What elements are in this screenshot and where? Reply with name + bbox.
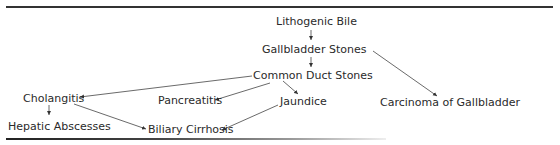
edge-cd-to-jaundice bbox=[283, 81, 298, 94]
node-gallbladder-stones: Gallbladder Stones bbox=[262, 43, 366, 56]
node-cholangitis: Cholangitis bbox=[23, 92, 84, 105]
node-common-duct-stones: Common Duct Stones bbox=[253, 69, 373, 82]
node-lithogenic-bile: Lithogenic Bile bbox=[276, 15, 357, 28]
node-biliary-cirrhosis: Biliary Cirrhosis bbox=[148, 123, 234, 136]
edge-gb-to-carcinoma bbox=[373, 51, 437, 96]
node-jaundice: Jaundice bbox=[280, 95, 327, 108]
node-carcinoma-of-gallbladder: Carcinoma of Gallbladder bbox=[380, 96, 520, 109]
node-hepatic-abscesses: Hepatic Abscesses bbox=[8, 120, 111, 133]
node-pancreatitis: Pancreatitis bbox=[158, 94, 222, 107]
bottom-rule bbox=[6, 138, 386, 140]
edge-cd-to-pancreatitis bbox=[215, 83, 270, 100]
